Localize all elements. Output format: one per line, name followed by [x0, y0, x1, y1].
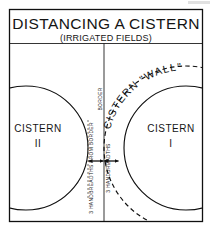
figure-canvas: DISTANCING A CISTERN (IRRIGATED FIELDS) …: [0, 0, 212, 231]
dimension-left-label: 3 HANDBREADTHS FROM BORDER: [89, 122, 94, 214]
cistern-wall-label: CISTERN "WALL": [100, 60, 182, 130]
cistern-ii-label: CISTERN: [14, 123, 61, 134]
cistern-i-label: CISTERN: [147, 123, 194, 134]
figure-title: DISTANCING A CISTERN: [12, 15, 200, 32]
cistern-ii-number: II: [35, 138, 42, 149]
dimension-right-label: 3 HANDBREADTHS: [106, 143, 111, 193]
cistern-diagram: DISTANCING A CISTERN (IRRIGATED FIELDS) …: [0, 0, 212, 231]
cistern-wall-label-path: CISTERN "WALL": [100, 60, 182, 130]
border-label: BORDER: [98, 87, 103, 110]
cistern-ii-circle: [0, 86, 88, 210]
cistern-i-circle: [124, 86, 212, 210]
cistern-i-number: I: [169, 138, 172, 149]
figure-subtitle: (IRRIGATED FIELDS): [60, 33, 152, 43]
